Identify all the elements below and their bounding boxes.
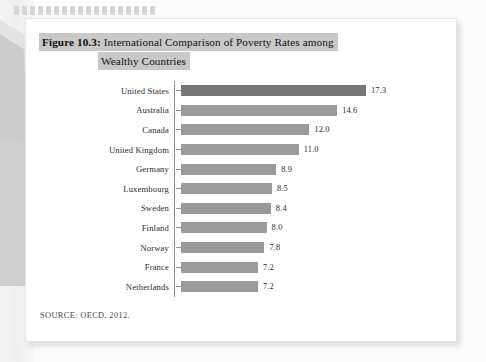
figure-number: Figure 10.3: bbox=[42, 36, 101, 48]
bar-row: Luxembourg8.5 bbox=[39, 179, 443, 199]
bar-track: 11.0 bbox=[181, 140, 443, 160]
bar-track: 8.0 bbox=[181, 218, 443, 238]
bar-track: 8.4 bbox=[181, 199, 443, 219]
bar-track: 17.3 bbox=[181, 81, 443, 101]
bar-track: 7.8 bbox=[181, 238, 443, 258]
bar-row: Finland8.0 bbox=[39, 218, 443, 238]
binding-tooth bbox=[30, 6, 35, 15]
bar bbox=[181, 262, 258, 273]
bar-value-label: 8.0 bbox=[272, 223, 283, 232]
source-note: SOURCE: OECD, 2012. bbox=[40, 311, 130, 320]
bar-row: Sweden8.4 bbox=[39, 199, 443, 219]
binding-tooth bbox=[110, 6, 115, 15]
binding-tooth bbox=[70, 6, 75, 15]
bar-row: Netherlands7.2 bbox=[39, 277, 443, 297]
category-label: Sweden bbox=[39, 203, 176, 213]
bar-track: 8.9 bbox=[181, 159, 443, 179]
binding-tooth bbox=[78, 6, 83, 15]
bar-row: United States17.3 bbox=[39, 81, 443, 101]
category-label: France bbox=[39, 262, 176, 272]
category-label: United Kingdom bbox=[39, 145, 176, 155]
bar-track: 12.0 bbox=[181, 120, 443, 140]
bar bbox=[181, 164, 276, 175]
category-label: Norway bbox=[39, 243, 176, 253]
figure-title-line-1: Figure 10.3: International Comparison of… bbox=[39, 33, 338, 51]
binding-tooth bbox=[38, 6, 43, 15]
bar bbox=[181, 183, 272, 194]
bar-value-label: 11.0 bbox=[304, 145, 319, 154]
binding-tooth bbox=[14, 6, 19, 15]
bar-row: Germany8.9 bbox=[39, 159, 443, 179]
bar-row: Canada12.0 bbox=[39, 120, 443, 140]
poverty-rate-bar-chart: United States17.3Australia14.6Canada12.0… bbox=[39, 81, 443, 299]
binding-tooth bbox=[126, 6, 131, 15]
category-label: Finland bbox=[39, 223, 176, 233]
binding-tooth bbox=[102, 6, 107, 15]
binding-tooth bbox=[142, 6, 147, 15]
scanned-page-root: Figure 10.3: International Comparison of… bbox=[0, 0, 486, 362]
bar-rows: United States17.3Australia14.6Canada12.0… bbox=[39, 81, 443, 297]
figure-page: Figure 10.3: International Comparison of… bbox=[25, 18, 457, 342]
bar-track: 8.5 bbox=[181, 179, 443, 199]
category-label: Australia bbox=[39, 105, 176, 115]
bar-value-label: 7.2 bbox=[263, 263, 274, 272]
category-label: Luxembourg bbox=[39, 184, 176, 194]
binding-tooth bbox=[46, 6, 51, 15]
bar-value-label: 7.2 bbox=[263, 282, 274, 291]
figure-title-line-2: Wealthy Countries bbox=[98, 52, 190, 70]
bar-value-label: 8.9 bbox=[281, 165, 292, 174]
binding-tooth bbox=[62, 6, 67, 15]
binding-tooth bbox=[22, 6, 27, 15]
binding-tooth bbox=[54, 6, 59, 15]
binding-tooth bbox=[118, 6, 123, 15]
binding-tooth bbox=[86, 6, 91, 15]
bar bbox=[181, 105, 337, 116]
binding-tooth bbox=[150, 6, 155, 15]
bar-value-label: 14.6 bbox=[342, 106, 357, 115]
bar-track: 7.2 bbox=[181, 257, 443, 277]
bar bbox=[181, 242, 264, 253]
bar bbox=[181, 281, 258, 292]
bar bbox=[181, 144, 299, 155]
figure-title-text-1: International Comparison of Poverty Rate… bbox=[101, 36, 334, 48]
bar-track: 7.2 bbox=[181, 277, 443, 297]
category-label: Canada bbox=[39, 125, 176, 135]
category-label: Netherlands bbox=[39, 282, 176, 292]
bar-value-label: 17.3 bbox=[371, 86, 386, 95]
bar-row: France7.2 bbox=[39, 257, 443, 277]
bar-track: 14.6 bbox=[181, 101, 443, 121]
bar-value-label: 7.8 bbox=[269, 243, 280, 252]
category-label: United States bbox=[39, 86, 176, 96]
bar bbox=[181, 222, 267, 233]
binding-tooth bbox=[94, 6, 99, 15]
bar-value-label: 12.0 bbox=[314, 125, 329, 134]
bar-row: Norway7.8 bbox=[39, 238, 443, 258]
figure-title: Figure 10.3: International Comparison of… bbox=[39, 32, 399, 70]
bar-value-label: 8.5 bbox=[277, 184, 288, 193]
bar-row: Australia14.6 bbox=[39, 101, 443, 121]
category-label: Germany bbox=[39, 164, 176, 174]
binding-tooth bbox=[134, 6, 139, 15]
bar bbox=[181, 85, 366, 96]
bar-row: United Kingdom11.0 bbox=[39, 140, 443, 160]
spiral-binding bbox=[14, 6, 164, 15]
bar-value-label: 8.4 bbox=[276, 204, 287, 213]
bar bbox=[181, 124, 309, 135]
bar bbox=[181, 203, 271, 214]
